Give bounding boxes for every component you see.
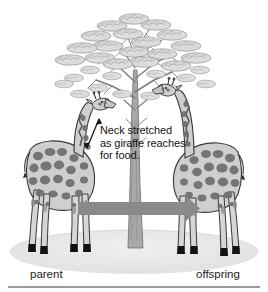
- label-offspring: offspring: [196, 268, 240, 280]
- giraffe-evolution-figure: Neck stretched as giraffe reaches for fo…: [0, 0, 268, 292]
- caption-line-2: as giraffe reaches: [100, 137, 196, 150]
- caption-line-1: Neck stretched: [100, 124, 196, 137]
- label-parent: parent: [30, 268, 63, 280]
- giraffe-parent: [23, 91, 116, 254]
- bottom-divider: [8, 286, 260, 288]
- giraffe-offspring: [152, 77, 245, 256]
- caption-line-3: for food.: [100, 149, 196, 162]
- annotation-caption: Neck stretched as giraffe reaches for fo…: [100, 124, 196, 162]
